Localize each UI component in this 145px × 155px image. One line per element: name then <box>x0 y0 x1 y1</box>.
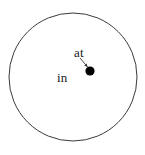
boundary-circle <box>9 13 137 141</box>
interior-region-label: in <box>57 71 68 84</box>
point-marker-label: at <box>74 46 84 59</box>
point-marker-dot <box>85 66 94 75</box>
diagram-vector-layer <box>0 0 145 155</box>
diagram-canvas: in at <box>0 0 145 155</box>
